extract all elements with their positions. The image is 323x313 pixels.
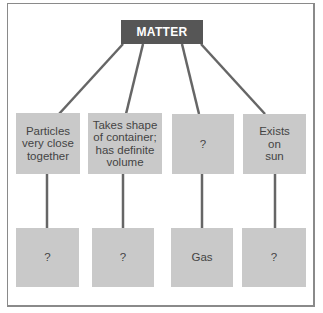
top-node-4-label: Exists on sun xyxy=(259,125,290,163)
bottom-node-2-label: ? xyxy=(120,251,126,264)
bottom-node-1: ? xyxy=(16,228,79,287)
top-node-1-label: Particles very close together xyxy=(22,125,74,163)
top-node-3: ? xyxy=(172,114,234,174)
connector-root-to-top-1 xyxy=(59,44,123,114)
top-node-2: Takes shape of container; has definite v… xyxy=(88,113,162,174)
top-node-3-label: ? xyxy=(200,138,206,151)
bottom-node-1-label: ? xyxy=(44,251,50,264)
top-node-4: Exists on sun xyxy=(243,114,306,174)
root-node-matter: MATTER xyxy=(121,20,203,44)
connector-root-to-top-3 xyxy=(182,44,199,114)
root-node-label: MATTER xyxy=(137,25,188,39)
top-node-2-label: Takes shape of container; has definite v… xyxy=(93,119,158,169)
bottom-node-4: ? xyxy=(242,228,306,287)
bottom-node-3: Gas xyxy=(171,228,233,287)
connector-root-to-top-4 xyxy=(201,44,265,114)
connector-root-to-top-2 xyxy=(126,44,143,114)
bottom-node-4-label: ? xyxy=(271,251,277,264)
bottom-node-2: ? xyxy=(92,228,154,287)
bottom-node-3-label: Gas xyxy=(191,251,212,264)
top-node-1: Particles very close together xyxy=(16,113,80,174)
